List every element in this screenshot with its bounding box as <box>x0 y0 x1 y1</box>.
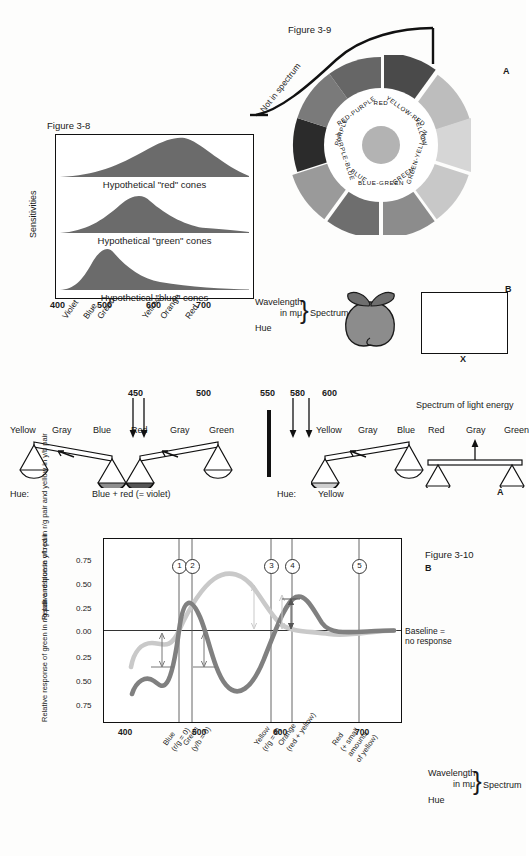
fig310-wavelength-line1: Wavelength <box>428 768 475 779</box>
figure-3-9-box-x-label: X <box>460 354 466 364</box>
spectrum-of-light-energy-title: Spectrum of light energy <box>416 400 514 410</box>
figure-3-9-white-box <box>421 292 508 354</box>
fig310-measure-arrows <box>151 633 216 667</box>
figure-3-9-panel-a-label: A <box>503 66 510 76</box>
fig310-spectrum-caption: Spectrum <box>483 780 522 790</box>
cone-label-green: Hypothetical "green" cones <box>56 235 253 246</box>
scale1-left-label: Yellow <box>10 425 36 435</box>
fig38-wavelength-line1: Wavelength <box>255 297 302 308</box>
fig38-wavelength-line2: in mμ <box>255 308 302 319</box>
fig310-ytick-025-bottom: 0.25 <box>76 653 92 662</box>
fig310-hue-green: Green(y/b = 0) <box>181 719 212 753</box>
fig310-ytick-050-bottom: 0.50 <box>76 677 92 686</box>
figure-3-10-title: Figure 3-10 <box>425 549 474 560</box>
fig310-marker-3: 3 <box>264 559 279 574</box>
fig38-hue-red: Red <box>183 302 200 321</box>
fig310-hue-caption: Hue <box>428 795 445 805</box>
fig310-brace: } <box>473 768 482 794</box>
fig310-wavelength-line2: in mμ <box>428 779 475 790</box>
scale-red-green-450 <box>126 436 244 488</box>
hue-result-right: Yellow <box>318 489 344 499</box>
fig38-wavelength-caption: Wavelength in mμ <box>255 297 302 319</box>
scale3-right-label: Blue <box>397 425 415 435</box>
fig310-ytick-025-top: 0.25 <box>76 604 92 613</box>
figure-3-10-panel-b-label: B <box>425 563 432 573</box>
scales-panel-a-label: A <box>497 487 504 497</box>
apple-illustration <box>340 288 400 350</box>
scale4-left-label: Red <box>428 425 445 435</box>
color-wheel: RED YELLOW-RED YELLOW GREEN-YELLOW GREEN… <box>291 55 471 235</box>
scale-red-green-level <box>424 436 526 488</box>
scale-yellow-blue-580 <box>311 436 429 488</box>
scale1-right-label: Blue <box>93 425 111 435</box>
fig310-marker-2: 2 <box>185 559 200 574</box>
fig310-marker-5: 5 <box>352 559 367 574</box>
fig310-xtick-400: 400 <box>118 727 132 737</box>
figure-3-8-y-axis-label: Sensitivities <box>28 190 38 238</box>
scale4-right-label: Green <box>504 425 529 435</box>
scale-wavelength-550: 550 <box>260 388 275 398</box>
fig310-baseline-note: Baseline =no response <box>405 626 452 646</box>
scale4-center-label: Gray <box>466 425 486 435</box>
hue-prefix-left: Hue: <box>10 489 29 499</box>
scale3-center-label: Gray <box>358 425 378 435</box>
hue-result-left: Blue + red (= violet) <box>92 489 171 499</box>
fig310-wavelength-caption: Wavelength in mμ <box>428 768 475 790</box>
spectrum-divider-bar <box>267 410 271 477</box>
fig310-ytick-000: 0.00 <box>76 627 92 636</box>
cone-label-red: Hypothetical "red" cones <box>56 179 253 190</box>
fig310-marker-4: 4 <box>285 559 300 574</box>
fig310-ytick-075-bottom: 0.75 <box>76 701 92 710</box>
fig38-brace: } <box>300 297 309 323</box>
figure-3-8-plot-box: Hypothetical "red" cones Hypothetical "g… <box>55 134 254 299</box>
color-wheel-svg: RED YELLOW-RED YELLOW GREEN-YELLOW GREEN… <box>291 55 471 235</box>
hue-prefix-right: Hue: <box>277 489 296 499</box>
cone-sensitivity-curves <box>56 135 253 298</box>
fig38-xtick-400: 400 <box>50 300 65 310</box>
fig310-ylabel-bottom: Relative response of green in r/g pair a… <box>40 534 49 722</box>
scale-yellow-blue-450 <box>8 436 126 488</box>
figure-3-8-title: Figure 3-8 <box>47 120 90 131</box>
scale1-center-label: Gray <box>52 425 72 435</box>
fig310-ytick-075-top: 0.75 <box>76 556 92 565</box>
fig38-hue-caption: Hue <box>255 323 272 333</box>
fig310-ytick-050-top: 0.50 <box>76 580 92 589</box>
